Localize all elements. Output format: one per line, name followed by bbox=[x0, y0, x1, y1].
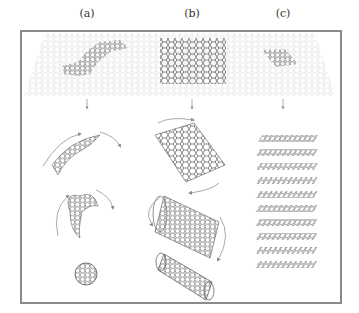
open-nanotube-b bbox=[148, 196, 225, 260]
partial-sphere-a bbox=[56, 190, 113, 238]
diagram-canvas bbox=[0, 0, 359, 313]
patch-b bbox=[160, 38, 226, 84]
closed-nanotube-b bbox=[156, 253, 214, 300]
stacked-graphite-c bbox=[255, 135, 318, 268]
fullerene-ball-a bbox=[75, 263, 97, 285]
rolling-sheet-b bbox=[155, 119, 225, 193]
curved-fragment-a bbox=[43, 132, 120, 175]
